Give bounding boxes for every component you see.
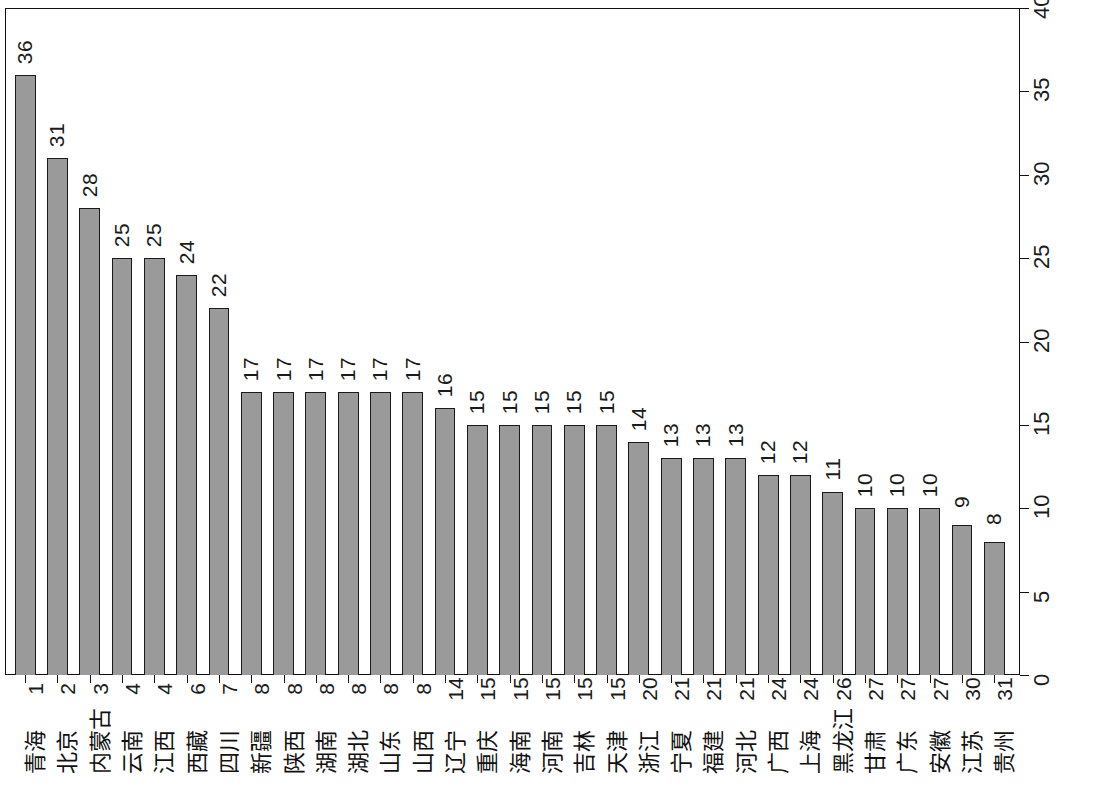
value-axis-label: 15 bbox=[1031, 411, 1053, 435]
bar-value-label: 15 bbox=[561, 390, 587, 414]
category-name-label: 重庆 bbox=[477, 700, 499, 774]
category-name-label: 甘肃 bbox=[865, 700, 887, 774]
category-name-label: 四川 bbox=[219, 700, 241, 774]
category-name-label: 湖南 bbox=[316, 700, 338, 774]
value-axis-label: 10 bbox=[1031, 495, 1053, 519]
value-axis-tick bbox=[1020, 91, 1029, 92]
bar-value-label: 15 bbox=[594, 390, 620, 414]
bar-value-label: 17 bbox=[303, 356, 329, 380]
category-name-label: 安徽 bbox=[930, 700, 952, 774]
bar[interactable]: 31 bbox=[47, 158, 68, 675]
category-name-label: 西藏 bbox=[187, 700, 209, 774]
category-name-label: 新疆 bbox=[251, 700, 273, 774]
value-axis-label: 25 bbox=[1031, 245, 1053, 269]
bar[interactable]: 25 bbox=[112, 258, 133, 675]
bar[interactable]: 25 bbox=[144, 258, 165, 675]
bar[interactable]: 36 bbox=[15, 75, 36, 675]
category-name-label: 山东 bbox=[380, 700, 402, 774]
bar-value-label: 12 bbox=[787, 440, 813, 464]
category-name-label: 贵州 bbox=[994, 700, 1016, 774]
bar[interactable]: 9 bbox=[952, 525, 973, 675]
bar[interactable]: 17 bbox=[338, 392, 359, 675]
bar[interactable]: 12 bbox=[790, 475, 811, 675]
bar[interactable]: 13 bbox=[725, 458, 746, 675]
bar[interactable]: 22 bbox=[209, 308, 230, 675]
bar[interactable]: 15 bbox=[596, 425, 617, 675]
bar[interactable]: 15 bbox=[564, 425, 585, 675]
value-axis-tick bbox=[1020, 175, 1029, 176]
category-name-label: 内蒙古 bbox=[90, 700, 112, 774]
bar[interactable]: 15 bbox=[467, 425, 488, 675]
chart-page: 3631282525242217171717171716151515151514… bbox=[0, 0, 1100, 806]
bar-value-label: 25 bbox=[141, 223, 167, 247]
bar-value-label: 12 bbox=[755, 440, 781, 464]
category-name-label: 云南 bbox=[122, 700, 144, 774]
bar-value-label: 17 bbox=[238, 356, 264, 380]
bar[interactable]: 13 bbox=[693, 458, 714, 675]
category-name-label: 海南 bbox=[510, 700, 532, 774]
category-name-label: 吉林 bbox=[574, 700, 596, 774]
value-axis-label: 35 bbox=[1031, 78, 1053, 102]
bar-value-label: 31 bbox=[44, 123, 70, 147]
bar-value-label: 25 bbox=[109, 223, 135, 247]
bar-value-label: 22 bbox=[206, 273, 232, 297]
category-axis: 1青海2北京3内蒙古4云南4江西6西藏7四川8新疆8陕西8湖南8湖北8山东8山西… bbox=[5, 675, 1020, 806]
category-name-label: 上海 bbox=[800, 700, 822, 774]
value-axis: 0510152025303540 bbox=[1020, 8, 1100, 675]
bar-value-label: 15 bbox=[529, 390, 555, 414]
bar-value-label: 17 bbox=[271, 356, 297, 380]
bar[interactable]: 10 bbox=[919, 508, 940, 675]
value-axis-tick bbox=[1020, 592, 1029, 593]
bar-value-label: 9 bbox=[949, 496, 975, 508]
bar[interactable]: 15 bbox=[532, 425, 553, 675]
value-axis-label: 0 bbox=[1031, 674, 1053, 686]
bar-value-label: 10 bbox=[884, 473, 910, 497]
bar[interactable]: 10 bbox=[855, 508, 876, 675]
bar[interactable]: 17 bbox=[273, 392, 294, 675]
category-name-label: 湖北 bbox=[348, 700, 370, 774]
value-axis-tick bbox=[1020, 675, 1029, 676]
category-name-label: 广西 bbox=[768, 700, 790, 774]
value-axis-label: 40 bbox=[1031, 0, 1053, 19]
bar[interactable]: 17 bbox=[402, 392, 423, 675]
bar[interactable]: 12 bbox=[758, 475, 779, 675]
bar[interactable]: 11 bbox=[822, 492, 843, 675]
value-axis-tick bbox=[1020, 425, 1029, 426]
bar[interactable]: 14 bbox=[628, 442, 649, 675]
category-name-label: 江西 bbox=[154, 700, 176, 774]
bar[interactable]: 16 bbox=[435, 408, 456, 675]
bar[interactable]: 17 bbox=[305, 392, 326, 675]
category-name-label: 青海 bbox=[25, 700, 47, 774]
category-name-label: 辽宁 bbox=[445, 700, 467, 774]
category-name-label: 北京 bbox=[57, 700, 79, 774]
bar[interactable]: 13 bbox=[661, 458, 682, 675]
bar-value-label: 16 bbox=[432, 373, 458, 397]
bar[interactable]: 17 bbox=[370, 392, 391, 675]
bar-value-label: 13 bbox=[723, 423, 749, 447]
value-axis-tick bbox=[1020, 258, 1029, 259]
bar-value-label: 13 bbox=[690, 423, 716, 447]
value-axis-label: 5 bbox=[1031, 590, 1053, 602]
bar-value-label: 14 bbox=[626, 406, 652, 430]
bar[interactable]: 17 bbox=[241, 392, 262, 675]
bar-value-label: 10 bbox=[917, 473, 943, 497]
bars-layer: 3631282525242217171717171716151515151514… bbox=[5, 8, 1020, 675]
category-name-label: 宁夏 bbox=[671, 700, 693, 774]
bar-value-label: 11 bbox=[820, 457, 846, 480]
bar[interactable]: 24 bbox=[176, 275, 197, 675]
category-name-label: 天津 bbox=[607, 700, 629, 774]
category-name-label: 浙江 bbox=[639, 700, 661, 774]
category-name-label: 山西 bbox=[413, 700, 435, 774]
bar[interactable]: 28 bbox=[79, 208, 100, 675]
category-name-label: 福建 bbox=[703, 700, 725, 774]
bar[interactable]: 8 bbox=[984, 542, 1005, 675]
bar[interactable]: 10 bbox=[887, 508, 908, 675]
value-axis-tick bbox=[1020, 342, 1029, 343]
bar-value-label: 24 bbox=[174, 240, 200, 264]
bar-value-label: 17 bbox=[335, 356, 361, 380]
bar-value-label: 13 bbox=[658, 423, 684, 447]
value-axis-label: 20 bbox=[1031, 328, 1053, 352]
bar-value-label: 17 bbox=[367, 356, 393, 380]
bar[interactable]: 15 bbox=[499, 425, 520, 675]
category-name-label: 河南 bbox=[542, 700, 564, 774]
